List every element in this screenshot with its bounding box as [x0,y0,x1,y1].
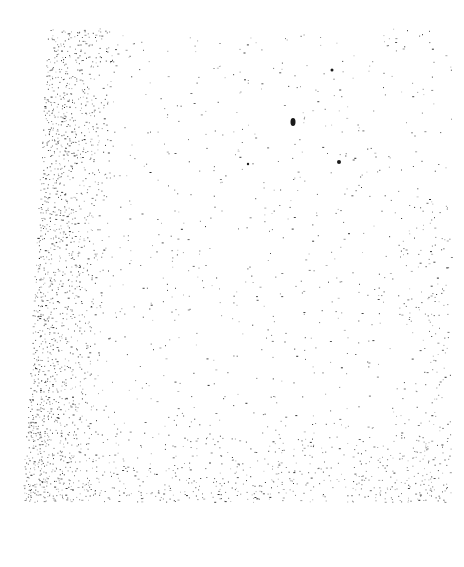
noise-texture [0,0,464,567]
